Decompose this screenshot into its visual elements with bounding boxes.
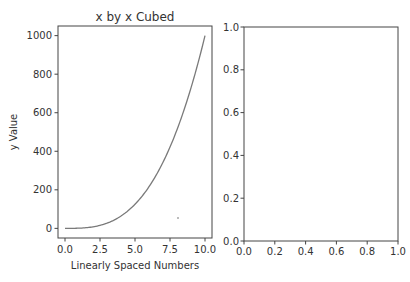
x-tick-label: 0.6 [328, 246, 344, 257]
right-axes-frame [244, 27, 398, 241]
x-tick-label: 5.0 [127, 244, 143, 255]
y-tick-label: 0.4 [223, 150, 239, 161]
left-x-ticks: 0.02.55.07.510.0 [57, 238, 216, 255]
y-tick-label: 0.8 [223, 64, 239, 75]
y-tick-label: 1.0 [223, 22, 239, 33]
x-tick-label: 0.4 [298, 246, 314, 257]
x-tick-label: 0.8 [359, 246, 375, 257]
left-axes-frame [58, 26, 212, 238]
y-tick-label: 0 [46, 223, 52, 234]
y-tick-label: 0.2 [223, 193, 239, 204]
cubic-curve-line [65, 36, 205, 229]
right-y-ticks: 0.00.20.40.60.81.0 [223, 22, 244, 247]
stray-dot-mark [177, 217, 179, 219]
right-subplot: 0.00.20.40.60.81.0 0.00.20.40.60.81.0 [223, 22, 406, 258]
y-tick-label: 400 [33, 146, 52, 157]
y-tick-label: 200 [33, 184, 52, 195]
x-tick-label: 0.2 [267, 246, 283, 257]
left-y-axis-label: y Value [8, 114, 19, 151]
left-y-ticks: 02004006008001000 [27, 30, 58, 234]
left-subplot: x by x Cubed 02004006008001000 0.02.55.0… [8, 10, 216, 271]
y-tick-label: 1000 [27, 30, 52, 41]
y-tick-label: 600 [33, 107, 52, 118]
right-x-ticks: 0.00.20.40.60.81.0 [236, 241, 406, 257]
x-tick-label: 0.0 [236, 246, 252, 257]
left-plot-title: x by x Cubed [96, 10, 175, 24]
x-tick-label: 2.5 [92, 244, 108, 255]
y-tick-label: 0.0 [223, 236, 239, 247]
x-tick-label: 7.5 [162, 244, 178, 255]
x-tick-label: 1.0 [390, 246, 406, 257]
y-tick-label: 800 [33, 69, 52, 80]
x-tick-label: 10.0 [194, 244, 216, 255]
x-tick-label: 0.0 [57, 244, 73, 255]
figure: x by x Cubed 02004006008001000 0.02.55.0… [0, 0, 410, 282]
left-x-axis-label: Linearly Spaced Numbers [71, 260, 199, 271]
y-tick-label: 0.6 [223, 107, 239, 118]
